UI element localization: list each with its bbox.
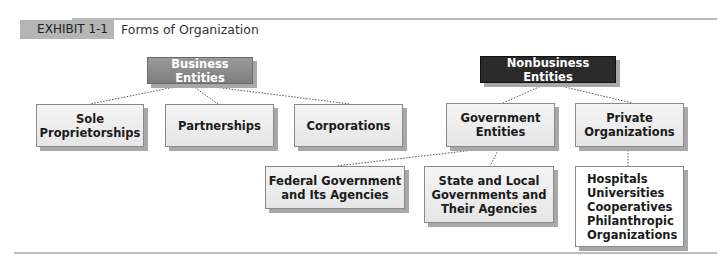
bottom-rule (14, 252, 717, 254)
government-entities-label: Government Entities (461, 111, 541, 139)
partnerships-label: Partnerships (178, 119, 261, 133)
sole-proprietorships-label: Sole Proprietorships (40, 112, 141, 140)
corporations-box: Corporations (294, 104, 403, 147)
private-organizations-label: Private Organizations (584, 111, 674, 139)
partnerships-box: Partnerships (165, 104, 274, 147)
nonbusiness-entities-box: Nonbusiness Entities (480, 56, 616, 83)
government-entities-box: Government Entities (446, 103, 555, 147)
sole-proprietorships-box: Sole Proprietorships (36, 104, 144, 147)
state-local-governments-label: State and Local Governments and Their Ag… (432, 174, 547, 216)
state-local-governments-box: State and Local Governments and Their Ag… (424, 166, 554, 223)
private-organizations-list: Hospitals Universities Cooperatives Phil… (587, 172, 677, 242)
private-organizations-box: Private Organizations (575, 103, 684, 147)
corporations-label: Corporations (307, 119, 391, 133)
exhibit-tag: EXHIBIT 1-1 (20, 20, 114, 39)
federal-government-box: Federal Government and Its Agencies (265, 166, 405, 209)
business-entities-label: Business Entities (148, 57, 252, 85)
private-organizations-list-box: Hospitals Universities Cooperatives Phil… (575, 166, 684, 247)
business-entities-box: Business Entities (147, 57, 253, 84)
nonbusiness-entities-label: Nonbusiness Entities (481, 56, 615, 84)
exhibit-title: Forms of Organization (121, 20, 259, 39)
federal-government-label: Federal Government and Its Agencies (269, 174, 402, 202)
